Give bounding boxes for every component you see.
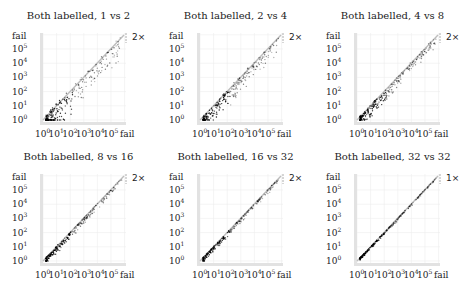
scatter-panel: Both labelled, 4 vs 8fail100101102103104… (314, 0, 471, 146)
plot-area (40, 33, 126, 125)
scatter-panel: Both labelled, 8 vs 16fail10010110210310… (0, 141, 157, 287)
y-tick-label: 103 (326, 213, 341, 223)
x-fail-label: fail (120, 270, 134, 280)
panel-title: Both labelled, 2 vs 4 (157, 10, 314, 21)
y-tick-label: 101 (326, 101, 341, 111)
x-fail-label: fail (277, 129, 291, 139)
y-tick-label: 101 (12, 242, 27, 252)
plot-area (354, 33, 440, 125)
y-fail-label: fail (326, 172, 340, 182)
y-tick-label: 103 (169, 213, 184, 223)
plot-area (354, 174, 440, 266)
y-fail-label: fail (12, 172, 26, 182)
y-tick-label: 102 (326, 87, 341, 97)
scatter-panel: Both labelled, 32 vs 32fail1001011021031… (314, 141, 471, 287)
scatter-panel: Both labelled, 1 vs 2fail100101102103104… (0, 0, 157, 146)
y-tick-label: 104 (169, 58, 184, 68)
panel-title: Both labelled, 8 vs 16 (0, 151, 157, 162)
ratio-annotation: 1× (446, 173, 459, 183)
y-tick-label: 105 (169, 185, 184, 195)
y-tick-label: 101 (169, 242, 184, 252)
y-fail-label: fail (12, 31, 26, 41)
panel-title: Both labelled, 16 vs 32 (157, 151, 314, 162)
y-tick-label: 104 (12, 199, 27, 209)
y-tick-label: 104 (169, 199, 184, 209)
scatter-panel: Both labelled, 2 vs 4fail100101102103104… (157, 0, 314, 146)
y-tick-label: 101 (12, 101, 27, 111)
x-tick-label: 105 (417, 270, 432, 280)
x-fail-label: fail (120, 129, 134, 139)
x-tick-label: 105 (103, 270, 118, 280)
y-fail-label: fail (169, 31, 183, 41)
y-tick-label: 105 (12, 185, 27, 195)
plot-area (197, 33, 283, 125)
y-tick-label: 105 (12, 44, 27, 54)
x-tick-label: 105 (260, 129, 275, 139)
y-tick-label: 102 (12, 228, 27, 238)
ratio-annotation: 2× (446, 32, 459, 42)
y-fail-label: fail (169, 172, 183, 182)
y-fail-label: fail (326, 31, 340, 41)
ratio-annotation: 2× (132, 173, 145, 183)
y-tick-label: 102 (169, 228, 184, 238)
y-tick-label: 103 (326, 72, 341, 82)
y-tick-label: 101 (169, 101, 184, 111)
y-tick-label: 102 (169, 87, 184, 97)
x-tick-label: 105 (260, 270, 275, 280)
y-tick-label: 104 (326, 199, 341, 209)
y-tick-label: 100 (169, 256, 184, 266)
x-tick-label: 105 (103, 129, 118, 139)
y-tick-label: 101 (326, 242, 341, 252)
y-tick-label: 100 (169, 115, 184, 125)
y-tick-label: 100 (326, 115, 341, 125)
y-tick-label: 105 (169, 44, 184, 54)
panel-title: Both labelled, 32 vs 32 (314, 151, 471, 162)
ratio-annotation: 2× (289, 173, 302, 183)
y-tick-label: 103 (12, 72, 27, 82)
ratio-annotation: 2× (289, 32, 302, 42)
y-tick-label: 104 (12, 58, 27, 68)
y-tick-label: 103 (169, 72, 184, 82)
x-fail-label: fail (277, 270, 291, 280)
x-fail-label: fail (434, 270, 448, 280)
y-tick-label: 105 (326, 44, 341, 54)
y-tick-label: 103 (12, 213, 27, 223)
plot-area (40, 174, 126, 266)
y-tick-label: 100 (326, 256, 341, 266)
y-tick-label: 102 (12, 87, 27, 97)
y-tick-label: 105 (326, 185, 341, 195)
y-tick-label: 102 (326, 228, 341, 238)
ratio-annotation: 2× (132, 32, 145, 42)
y-tick-label: 100 (12, 115, 27, 125)
scatter-panel: Both labelled, 16 vs 32fail1001011021031… (157, 141, 314, 287)
y-tick-label: 104 (326, 58, 341, 68)
x-tick-label: 105 (417, 129, 432, 139)
x-fail-label: fail (434, 129, 448, 139)
panel-title: Both labelled, 1 vs 2 (0, 10, 157, 21)
y-tick-label: 100 (12, 256, 27, 266)
plot-area (197, 174, 283, 266)
panel-title: Both labelled, 4 vs 8 (314, 10, 471, 21)
